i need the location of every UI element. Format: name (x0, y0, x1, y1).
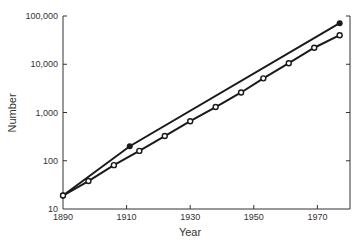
y-tick-label: 1,000 (35, 108, 58, 118)
data-point-open (213, 105, 218, 110)
data-point-open (137, 148, 142, 153)
x-axis-ticks: 18901910193019501970 (53, 205, 327, 222)
x-tick-label: 1950 (244, 212, 264, 222)
data-point-open (188, 119, 193, 124)
data-point-open (261, 76, 266, 81)
data-point-filled (337, 20, 343, 26)
x-axis-title: Year (179, 226, 202, 238)
y-tick-label: 10,000 (30, 59, 58, 69)
data-point-open (162, 134, 167, 139)
data-point-open (337, 33, 342, 38)
y-axis-title: Number (6, 93, 18, 132)
data-point-open (86, 179, 91, 184)
data-series (60, 20, 343, 198)
data-point-open (312, 45, 317, 50)
data-point-open (61, 193, 66, 198)
x-tick-label: 1890 (53, 212, 73, 222)
x-tick-label: 1910 (117, 212, 137, 222)
data-point-open (111, 163, 116, 168)
data-point-open (239, 90, 244, 95)
x-tick-label: 1970 (307, 212, 327, 222)
series-open (61, 33, 343, 198)
x-tick-label: 1930 (180, 212, 200, 222)
data-point-open (286, 61, 291, 66)
y-tick-label: 100,000 (25, 11, 58, 21)
y-tick-label: 100 (43, 156, 58, 166)
data-point-filled (127, 143, 133, 149)
line-chart: 101001,00010,000100,000 1890191019301950… (0, 0, 359, 248)
